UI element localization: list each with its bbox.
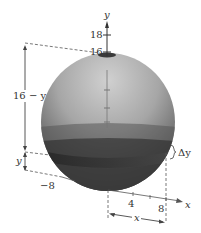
y-tick-18: 18 <box>90 29 103 40</box>
lower-height-dimension <box>23 152 27 171</box>
base-dashed-line <box>25 170 62 177</box>
sphere-volume-diagram: y 18 16 16 − y y −8 Δy 4 8 x <box>0 0 201 233</box>
y-axis-label: y <box>103 9 110 20</box>
x-tick-8: 8 <box>158 203 164 214</box>
upper-height-label: 16 − y <box>13 90 46 101</box>
delta-y-label: Δy <box>178 147 191 158</box>
delta-y-brace <box>170 145 176 159</box>
x-axis <box>108 190 183 203</box>
top-dashed-line <box>25 43 100 53</box>
y-tick-16: 16 <box>90 46 103 57</box>
slice-dashed-line <box>25 152 50 155</box>
neg-x-tick-label: −8 <box>40 180 55 191</box>
x-tick-4: 4 <box>128 198 134 209</box>
x-axis-label: x <box>185 199 191 210</box>
lower-height-label: y <box>15 155 22 166</box>
radius-label: x <box>134 212 140 223</box>
sphere <box>30 53 186 201</box>
